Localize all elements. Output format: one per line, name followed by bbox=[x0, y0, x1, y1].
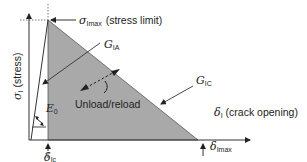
delta-ic-label: δIc bbox=[44, 151, 57, 162]
y-axis-label: σI(stress) bbox=[11, 53, 24, 100]
delta-imax-label: δImax bbox=[210, 140, 232, 153]
loading-line bbox=[31, 20, 48, 140]
g-ic-label: GIC bbox=[196, 74, 212, 87]
g-ia-label: GIA bbox=[104, 38, 120, 51]
unload-reload-label: Unload/reload bbox=[75, 98, 141, 110]
sigma-imax-label: σImax(stress limit) bbox=[79, 14, 162, 27]
x-axis-label: δI(crack opening) bbox=[214, 106, 298, 119]
g-ic-pointer bbox=[161, 86, 193, 104]
traction-separation-diagram: σImax(stress limit) GIA GIC Unload/reloa… bbox=[0, 0, 307, 162]
shaded-energy-region bbox=[48, 20, 198, 140]
